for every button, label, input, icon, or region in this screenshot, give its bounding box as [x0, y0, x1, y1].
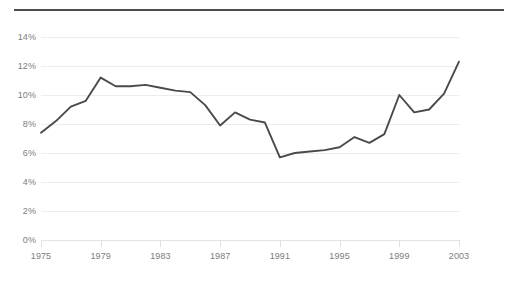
- y-tick-label: 12%: [2, 62, 36, 71]
- y-axis: 0%2%4%6%8%10%12%14%: [0, 37, 36, 240]
- y-tick-label: 4%: [2, 178, 36, 187]
- x-tick-label: 2003: [439, 251, 479, 261]
- x-tick-label: 1999: [379, 251, 419, 261]
- x-tick-mark: [220, 240, 221, 247]
- plot-area: [41, 37, 459, 240]
- y-tick-label: 6%: [2, 149, 36, 158]
- x-tick-label: 1987: [200, 251, 240, 261]
- x-tick-label: 1983: [140, 251, 180, 261]
- x-tick-mark: [340, 240, 341, 247]
- x-tick-label: 1991: [260, 251, 300, 261]
- gridline: [41, 124, 459, 125]
- y-tick-label: 14%: [2, 33, 36, 42]
- y-tick-label: 0%: [2, 236, 36, 245]
- y-tick-label: 10%: [2, 91, 36, 100]
- gridline: [41, 37, 459, 38]
- clipped-title-artifact: [118, 0, 140, 7]
- x-tick-mark: [280, 240, 281, 247]
- x-tick-label: 1975: [21, 251, 61, 261]
- x-tick-mark: [160, 240, 161, 247]
- x-tick-mark: [459, 240, 460, 247]
- gridline: [41, 95, 459, 96]
- x-tick-mark: [399, 240, 400, 247]
- gridline: [41, 153, 459, 154]
- x-tick-mark: [41, 240, 42, 247]
- y-tick-label: 8%: [2, 120, 36, 129]
- gridline: [41, 182, 459, 183]
- y-tick-label: 2%: [2, 207, 36, 216]
- x-tick-mark: [101, 240, 102, 247]
- chart-screenshot: 0%2%4%6%8%10%12%14% 19751979198319871991…: [0, 0, 510, 288]
- x-tick-label: 1979: [81, 251, 121, 261]
- x-tick-label: 1995: [320, 251, 360, 261]
- header-divider: [14, 9, 504, 11]
- gridline: [41, 66, 459, 67]
- axis-baseline: [41, 240, 459, 241]
- gridline: [41, 211, 459, 212]
